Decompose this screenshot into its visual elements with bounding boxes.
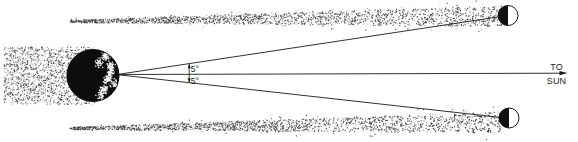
moon-upper <box>498 6 518 26</box>
sightline-lower <box>119 75 500 118</box>
dust-band-upper <box>70 0 502 32</box>
sightlines <box>119 17 568 118</box>
sun-line <box>119 73 561 74</box>
earth-globe <box>67 49 120 102</box>
earth-disk <box>67 49 120 102</box>
moon-lower-shadow-half <box>499 108 509 128</box>
dust-band-upper-dots <box>71 1 502 31</box>
moon-upper-shadow-half <box>498 6 508 26</box>
orbit-diagram: 5° 5° TO SUN <box>0 0 578 142</box>
to-sun-label-line1: TO <box>550 62 563 72</box>
sightline-upper <box>119 17 500 75</box>
moon-lower <box>499 108 519 128</box>
dust-band-lower-dots <box>70 107 502 139</box>
diagram-art <box>4 0 568 139</box>
figure: 5° 5° TO SUN <box>0 0 578 142</box>
sun-direction-line <box>119 71 568 75</box>
angle-label-lower: 5° <box>191 76 199 86</box>
to-sun-label-line2: SUN <box>547 76 567 86</box>
dust-band-upper-dots <box>70 1 500 32</box>
dust-band-lower <box>70 107 502 140</box>
angle-label-upper: 5° <box>191 64 199 74</box>
